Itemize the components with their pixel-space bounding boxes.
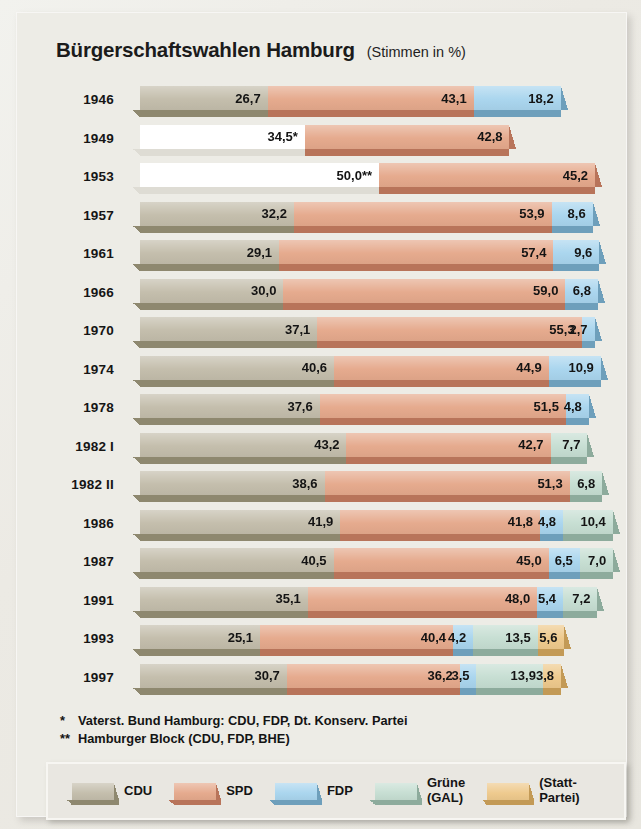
segment-value: 6,8 <box>573 283 591 298</box>
bar-end-cap <box>564 625 571 649</box>
segment-value: 41,9 <box>308 514 333 529</box>
bar-segment: 45,0 <box>334 548 549 572</box>
chart-legend: CDUSPDFDPGrüne (GAL)(Statt- Partei) <box>46 762 626 820</box>
bar-segment: 4,8 <box>566 394 589 418</box>
chart-row: 197037,155,32,7 <box>16 311 641 350</box>
year-label: 1970 <box>16 323 114 338</box>
page-title: Bürgerschaftswahlen Hamburg <box>56 38 355 62</box>
chart-row: 199325,140,44,213,55,6 <box>16 619 641 658</box>
segment-value: 50,0** <box>337 168 372 183</box>
segment-value: 9,6 <box>574 245 592 260</box>
year-label: 1986 <box>16 515 114 530</box>
bar-segment: 53,9 <box>294 202 552 226</box>
bar-segment: 55,3 <box>317 317 581 341</box>
segment-value: 34,5* <box>268 129 298 144</box>
chart-row: 1982 II38,651,36,8 <box>16 465 641 504</box>
chart-row: 197837,651,54,8 <box>16 388 641 427</box>
bar-segment: 43,2 <box>140 433 346 457</box>
segment-value: 4,8 <box>538 514 556 529</box>
segment-value: 10,9 <box>568 360 593 375</box>
chart-row: 195350,0**45,2 <box>16 157 641 196</box>
stacked-bar: 34,5*42,8 <box>140 125 509 149</box>
chart-row: 196630,059,06,8 <box>16 273 641 312</box>
year-label: 1961 <box>16 246 114 261</box>
stacked-bar: 26,743,118,2 <box>140 86 561 110</box>
legend-label: CDU <box>124 784 152 799</box>
bar-segment: 59,0 <box>283 279 565 303</box>
year-label: 1953 <box>16 169 114 184</box>
bar-segment: 13,5 <box>473 625 538 649</box>
segment-sheen <box>294 202 552 226</box>
segment-value: 30,7 <box>254 668 279 683</box>
swatch-face <box>487 783 529 800</box>
bar-segment: 36,2 <box>287 664 460 688</box>
swatch-sheen <box>174 783 216 800</box>
bar-end-cap <box>593 202 600 226</box>
bar-segment: 43,1 <box>268 86 474 110</box>
swatch-sheen <box>375 783 417 800</box>
segment-value: 35,1 <box>275 591 300 606</box>
bar-segment: 32,2 <box>140 202 294 226</box>
bar-segment: 6,8 <box>570 471 603 495</box>
swatch-lip-left <box>270 800 275 805</box>
segment-sheen <box>317 317 581 341</box>
segment-sheen <box>279 240 553 264</box>
segment-sheen <box>283 279 565 303</box>
segment-value: 7,0 <box>588 553 606 568</box>
bar-end-cap <box>589 394 596 418</box>
bar-segment: 5,6 <box>538 625 565 649</box>
stacked-bar: 30,736,23,513,93,8 <box>140 664 561 688</box>
segment-sheen <box>308 587 537 611</box>
swatch-face <box>275 783 317 800</box>
stacked-bar: 37,651,54,8 <box>140 394 589 418</box>
segment-value: 6,5 <box>555 553 573 568</box>
segment-value: 36,2 <box>427 668 452 683</box>
stacked-bar: 38,651,36,8 <box>140 471 602 495</box>
segment-value: 41,8 <box>508 514 533 529</box>
year-label: 1946 <box>16 92 114 107</box>
segment-value: 45,2 <box>563 168 588 183</box>
bar-segment: 13,9 <box>476 664 542 688</box>
swatch-lip <box>275 800 322 805</box>
bar-segment: 5,4 <box>537 587 563 611</box>
bar-segment: 48,0 <box>308 587 537 611</box>
bar-segment: 2,7 <box>582 317 595 341</box>
bar-end-cap <box>587 433 594 457</box>
segment-value: 42,7 <box>518 437 543 452</box>
chart-subtitle: (Stimmen in %) <box>367 44 466 60</box>
stacked-bar: 50,0**45,2 <box>140 163 595 187</box>
year-label: 1982 II <box>16 477 114 492</box>
legend-swatch-icon <box>375 783 417 800</box>
chart-row: 194934,5*42,8 <box>16 119 641 158</box>
bar-segment: 42,8 <box>305 125 510 149</box>
bar-end-cap <box>509 125 516 149</box>
segment-value: 53,9 <box>519 206 544 221</box>
swatch-cap-right <box>417 783 422 800</box>
legend-swatch-icon <box>275 783 317 800</box>
segment-value: 48,0 <box>505 591 530 606</box>
bar-segment: 7,0 <box>580 548 613 572</box>
bar-end-cap <box>602 471 609 495</box>
infographic-page: Bürgerschaftswahlen Hamburg (Stimmen in … <box>0 0 641 829</box>
segment-value: 7,7 <box>562 437 580 452</box>
bar-segment: 7,7 <box>551 433 588 457</box>
bar-segment: 25,1 <box>140 625 260 649</box>
segment-value: 44,9 <box>516 360 541 375</box>
bar-segment: 10,4 <box>563 510 613 534</box>
swatch-lip <box>72 800 119 805</box>
year-label: 1993 <box>16 631 114 646</box>
footnote-two-marker: ** <box>60 730 78 748</box>
swatch-cap-right <box>317 783 322 800</box>
bar-segment: 41,9 <box>140 510 340 534</box>
segment-value: 40,4 <box>421 630 446 645</box>
bar-segment: 30,0 <box>140 279 283 303</box>
footnote-one-marker: * <box>60 712 78 730</box>
bar-segment: 40,4 <box>260 625 453 649</box>
segment-value: 32,2 <box>262 206 287 221</box>
bar-end-cap <box>595 163 602 187</box>
legend-label: Grüne (GAL) <box>427 776 465 806</box>
swatch-lip-left <box>370 800 375 805</box>
swatch-lip-left <box>169 800 174 805</box>
segment-value: 13,9 <box>511 668 536 683</box>
bar-segment: 51,3 <box>325 471 570 495</box>
